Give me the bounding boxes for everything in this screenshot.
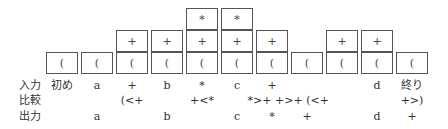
stack-cell: +	[186, 30, 218, 52]
output-token: c	[234, 110, 240, 123]
row-label-input: 入力	[19, 79, 41, 92]
stack-cell: (	[326, 52, 358, 74]
stack-cell: (	[221, 52, 253, 74]
compare-note: +>)	[401, 94, 424, 107]
input-token: +	[267, 79, 276, 92]
stack-cell: +	[151, 30, 183, 52]
input-token: b	[163, 79, 170, 92]
stack-cell: (	[186, 52, 218, 74]
stack-cell: (	[151, 52, 183, 74]
row-label-output: 出力	[19, 110, 41, 123]
stack-cell: +	[256, 30, 288, 52]
stack-cell: +	[221, 30, 253, 52]
output-token: +	[302, 110, 311, 123]
stack-cell: *	[221, 8, 253, 30]
output-token: *	[269, 110, 275, 123]
input-token: c	[234, 79, 240, 92]
input-token: 初め	[51, 79, 73, 92]
stack-cell: *	[186, 8, 218, 30]
stack-cell: (	[116, 52, 148, 74]
output-token: a	[94, 110, 101, 123]
input-token: d	[373, 79, 380, 92]
input-token: 終り	[401, 79, 423, 92]
stack-cell: (	[46, 52, 78, 74]
output-token: d	[373, 110, 380, 123]
input-token: a	[94, 79, 101, 92]
stack-cell: (	[291, 52, 323, 74]
output-token: +	[407, 110, 416, 123]
stack-cell: (	[396, 52, 428, 74]
compare-note: *>+ +>+ (<+	[248, 94, 329, 107]
input-token: +	[127, 79, 136, 92]
stack-cell: (	[256, 52, 288, 74]
stack-cell: +	[361, 30, 393, 52]
input-token: *	[199, 79, 205, 92]
compare-note: +<*	[190, 94, 214, 107]
stack-cell: (	[81, 52, 113, 74]
output-token: b	[163, 110, 170, 123]
compare-note: (<+	[121, 94, 144, 107]
stack-cell: +	[326, 30, 358, 52]
stack-cell: (	[361, 52, 393, 74]
stack-cell: +	[116, 30, 148, 52]
row-label-compare: 比較	[19, 94, 41, 107]
